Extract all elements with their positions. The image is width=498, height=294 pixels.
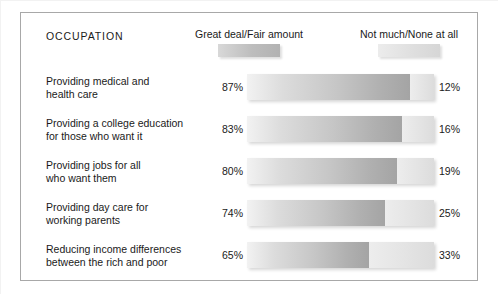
row-label-line1: Providing medical and [46, 75, 211, 88]
row-label-line2: health care [46, 87, 211, 100]
chart-row: Reducing income differencesbetween the r… [21, 234, 479, 276]
bar-segment-not-much [369, 242, 434, 268]
bar-segment-great-deal [247, 200, 385, 226]
legend-label-great-deal: Great deal/Fair amount [179, 28, 319, 40]
bar-segment-great-deal [247, 74, 410, 100]
value-label-not-much: 12% [439, 81, 460, 93]
value-label-not-much: 16% [439, 123, 460, 135]
bar-segment-not-much [397, 158, 434, 184]
bar-segment-great-deal [247, 242, 369, 268]
value-label-not-much: 19% [439, 165, 460, 177]
legend-swatch-great-deal [218, 44, 280, 57]
chart-rows: Providing medical andhealth care87%12%Pr… [21, 66, 479, 276]
legend-item-great-deal: Great deal/Fair amount [179, 28, 319, 57]
value-label-great-deal: 80% [194, 165, 243, 177]
row-label: Providing a college educationfor those w… [46, 117, 211, 142]
value-label-not-much: 33% [439, 249, 460, 261]
value-label-great-deal: 83% [194, 123, 243, 135]
row-label-line1: Reducing income differences [46, 243, 211, 256]
row-label-line1: Providing jobs for all [46, 159, 211, 172]
row-label-line2: between the rich and poor [46, 255, 211, 268]
stacked-bar [247, 200, 434, 226]
value-label-great-deal: 65% [194, 249, 243, 261]
value-label-not-much: 25% [439, 207, 460, 219]
row-label-line2: for those who want it [46, 129, 211, 142]
row-label-line1: Providing a college education [46, 117, 211, 130]
row-label-line2: working parents [46, 213, 211, 226]
stacked-bar [247, 242, 434, 268]
stacked-bar [247, 116, 434, 142]
bar-segment-not-much [410, 74, 434, 100]
row-label: Reducing income differencesbetween the r… [46, 243, 211, 268]
chart-row: Providing a college educationfor those w… [21, 108, 479, 150]
legend-swatch-not-much [378, 44, 440, 57]
row-label-line1: Providing day care for [46, 201, 211, 214]
value-label-great-deal: 74% [194, 207, 243, 219]
bar-segment-great-deal [247, 116, 402, 142]
chart-row: Providing medical andhealth care87%12% [21, 66, 479, 108]
row-label-line2: who want them [46, 171, 211, 184]
bar-segment-not-much [402, 116, 434, 142]
row-label: Providing jobs for allwho want them [46, 159, 211, 184]
stacked-bar [247, 74, 434, 100]
page-title: OCCUPATION [46, 30, 123, 42]
value-label-great-deal: 87% [194, 81, 243, 93]
stacked-bar [247, 158, 434, 184]
bar-segment-great-deal [247, 158, 397, 184]
legend-item-not-much: Not much/None at all [343, 28, 475, 57]
chart-panel: OCCUPATION Great deal/Fair amount Not mu… [20, 12, 478, 281]
bar-segment-not-much [385, 200, 434, 226]
chart-row: Providing day care forworking parents74%… [21, 192, 479, 234]
row-label: Providing medical andhealth care [46, 75, 211, 100]
legend-label-not-much: Not much/None at all [343, 28, 475, 40]
row-label: Providing day care forworking parents [46, 201, 211, 226]
chart-row: Providing jobs for allwho want them80%19… [21, 150, 479, 192]
